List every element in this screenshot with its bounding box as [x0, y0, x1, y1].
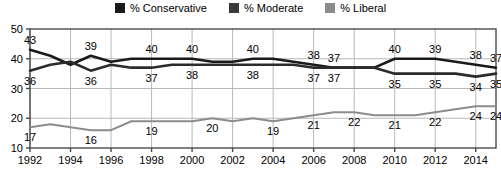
x-axis-ticks: 1992199419961998200020022004200620082010…	[18, 148, 488, 166]
data-label: 19	[267, 125, 279, 137]
data-label: 37	[328, 72, 340, 84]
x-tick-label: 2014	[463, 154, 487, 166]
y-tick-label: 10	[11, 142, 23, 154]
data-label: 36	[24, 75, 36, 87]
series-line-moderate	[30, 62, 496, 77]
data-label: 35	[490, 78, 501, 90]
data-label: 40	[389, 43, 401, 55]
data-label: 19	[145, 125, 157, 137]
data-label: 34	[470, 81, 482, 93]
data-label: 37	[490, 52, 501, 64]
x-tick-label: 2008	[342, 154, 366, 166]
data-label: 37	[308, 72, 320, 84]
line-chart: % Conservative % Moderate % Liberal 1020…	[0, 0, 501, 175]
data-label: 20	[206, 122, 218, 134]
x-tick-label: 1996	[99, 154, 123, 166]
data-label: 38	[247, 69, 259, 81]
plot-area: 1020304050 19921994199619982000200220042…	[0, 0, 501, 175]
x-tick-label: 2010	[382, 154, 406, 166]
x-tick-label: 2006	[301, 154, 325, 166]
data-label: 39	[429, 43, 441, 55]
data-label: 38	[186, 69, 198, 81]
data-label: 37	[328, 52, 340, 64]
data-label: 16	[85, 134, 97, 146]
data-label: 43	[24, 34, 36, 46]
x-tick-label: 2000	[180, 154, 204, 166]
y-tick-label: 50	[11, 23, 23, 35]
data-label: 39	[85, 40, 97, 52]
data-label: 38	[308, 49, 320, 61]
data-label: 24	[490, 110, 501, 122]
data-label: 40	[247, 43, 259, 55]
data-label: 37	[145, 72, 157, 84]
x-tick-label: 1992	[18, 154, 42, 166]
y-tick-label: 40	[11, 53, 23, 65]
y-tick-label: 30	[11, 83, 23, 95]
y-tick-label: 20	[11, 112, 23, 124]
data-label: 17	[24, 131, 36, 143]
data-label: 38	[470, 49, 482, 61]
x-tick-label: 2002	[220, 154, 244, 166]
data-label: 40	[186, 43, 198, 55]
data-label: 40	[145, 43, 157, 55]
data-label: 22	[429, 116, 441, 128]
data-label: 35	[429, 78, 441, 90]
data-label: 21	[389, 119, 401, 131]
x-tick-label: 1998	[139, 154, 163, 166]
x-tick-label: 2004	[261, 154, 285, 166]
data-label: 21	[308, 119, 320, 131]
x-tick-label: 1994	[58, 154, 82, 166]
x-tick-label: 2012	[423, 154, 447, 166]
data-label: 35	[389, 78, 401, 90]
data-label: 36	[85, 75, 97, 87]
data-label: 24	[470, 110, 482, 122]
data-label: 22	[348, 116, 360, 128]
